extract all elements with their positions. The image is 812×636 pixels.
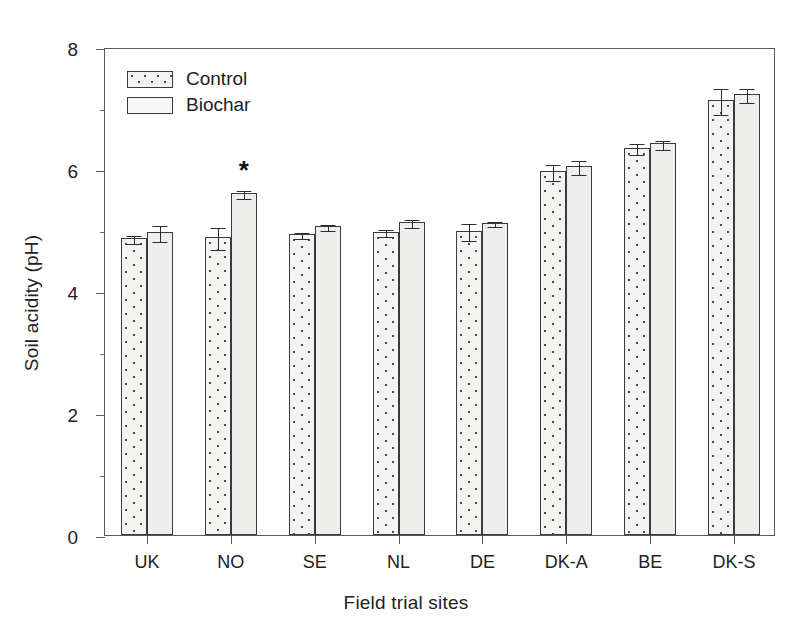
y-tick-6: 6 xyxy=(96,171,105,172)
y-tick-label-4: 4 xyxy=(67,283,78,305)
error-cap-SE-biochar-upper xyxy=(320,225,335,226)
error-cap-UK-biochar-upper xyxy=(152,226,167,227)
error-bar-DK-A-biochar xyxy=(579,161,580,176)
error-bar-UK-biochar xyxy=(160,226,161,242)
error-bar-NL-biochar xyxy=(412,220,413,227)
x-tick-label-DK-A: DK-A xyxy=(545,552,588,573)
x-tick-label-UK: UK xyxy=(134,552,159,573)
x-axis-title: Field trial sites xyxy=(0,592,812,614)
plot-area: Control Biochar 02468 UKNOSENLDEDK-ABEDK… xyxy=(104,48,775,536)
x-tick-NO xyxy=(231,535,232,544)
error-bar-DK-S-biochar xyxy=(747,89,748,104)
x-tick-label-NL: NL xyxy=(387,552,410,573)
legend-label-control: Control xyxy=(186,68,247,90)
error-cap-NO-control-lower xyxy=(210,250,225,251)
x-tick-DK-S xyxy=(734,535,735,544)
y-tick-minor-3 xyxy=(100,354,105,355)
error-cap-DE-biochar-upper xyxy=(488,222,503,223)
y-tick-minor-1 xyxy=(100,476,105,477)
y-tick-label-2: 2 xyxy=(67,405,78,427)
error-cap-BE-biochar-upper xyxy=(656,141,671,142)
bar-BE-control xyxy=(624,148,650,535)
bar-NO-control xyxy=(205,237,231,535)
bar-UK-control xyxy=(121,238,147,535)
bar-SE-control xyxy=(289,234,315,535)
error-cap-DK-S-control-upper xyxy=(714,89,729,90)
x-tick-UK xyxy=(147,535,148,544)
error-cap-DK-A-biochar-lower xyxy=(572,175,587,176)
legend-swatch-biochar-icon xyxy=(127,97,173,114)
y-tick-2: 2 xyxy=(96,415,105,416)
error-cap-NO-biochar-lower xyxy=(236,199,251,200)
y-tick-label-8: 8 xyxy=(67,39,78,61)
error-cap-BE-control-upper xyxy=(630,144,645,145)
error-cap-UK-biochar-lower xyxy=(152,242,167,243)
error-bar-NO-biochar xyxy=(244,191,245,200)
bar-DE-control xyxy=(456,231,482,535)
error-bar-NL-control xyxy=(386,230,387,237)
bar-DK-S-biochar xyxy=(734,94,760,535)
bar-NO-biochar xyxy=(231,193,257,535)
error-cap-UK-control-upper xyxy=(126,236,141,237)
x-tick-label-BE: BE xyxy=(638,552,662,573)
error-cap-DE-biochar-lower xyxy=(488,227,503,228)
bar-DK-A-control xyxy=(540,171,566,535)
error-bar-DK-S-control xyxy=(721,89,722,116)
error-cap-NL-control-lower xyxy=(378,237,393,238)
y-tick-4: 4 xyxy=(96,293,105,294)
error-cap-BE-control-lower xyxy=(630,155,645,156)
legend-label-biochar: Biochar xyxy=(186,94,250,116)
x-tick-label-DK-S: DK-S xyxy=(713,552,756,573)
x-tick-label-DE: DE xyxy=(470,552,495,573)
error-cap-NO-control-upper xyxy=(210,228,225,229)
error-bar-DK-A-control xyxy=(553,165,554,181)
error-bar-DE-control xyxy=(469,224,470,241)
bar-NL-biochar xyxy=(399,222,425,535)
error-cap-DK-S-biochar-upper xyxy=(740,89,755,90)
y-axis-title: Soil acidity (pH) xyxy=(21,153,43,453)
legend-item-control: Control xyxy=(127,67,317,91)
error-cap-SE-control-upper xyxy=(294,233,309,234)
error-cap-NL-biochar-upper xyxy=(404,220,419,221)
error-cap-NL-biochar-lower xyxy=(404,228,419,229)
bar-DK-S-control xyxy=(708,100,734,535)
y-tick-8: 8 xyxy=(96,49,105,50)
error-cap-NO-biochar-upper xyxy=(236,191,251,192)
bar-BE-biochar xyxy=(650,143,676,535)
bar-UK-biochar xyxy=(147,232,173,535)
legend-item-biochar: Biochar xyxy=(127,93,317,117)
x-tick-SE xyxy=(315,535,316,544)
chart-figure: Soil acidity (pH) Field trial sites Cont… xyxy=(0,0,812,636)
y-tick-minor-5 xyxy=(100,232,105,233)
error-bar-NO-control xyxy=(218,228,219,250)
bar-DE-biochar xyxy=(482,223,508,535)
error-cap-DK-A-control-lower xyxy=(546,181,561,182)
error-cap-NL-control-upper xyxy=(378,230,393,231)
y-tick-label-6: 6 xyxy=(67,161,78,183)
error-cap-UK-control-lower xyxy=(126,244,141,245)
error-cap-SE-biochar-lower xyxy=(320,231,335,232)
x-tick-label-NO: NO xyxy=(217,552,244,573)
error-bar-BE-biochar xyxy=(663,141,664,150)
error-cap-DK-A-control-upper xyxy=(546,165,561,166)
x-tick-BE xyxy=(650,535,651,544)
bar-SE-biochar xyxy=(315,226,341,535)
error-cap-DK-A-biochar-upper xyxy=(572,161,587,162)
significance-marker-NO: * xyxy=(239,157,249,183)
error-cap-BE-biochar-lower xyxy=(656,150,671,151)
x-tick-NL xyxy=(399,535,400,544)
error-bar-BE-control xyxy=(637,144,638,155)
error-cap-SE-control-lower xyxy=(294,239,309,240)
x-tick-DE xyxy=(482,535,483,544)
chart-legend: Control Biochar xyxy=(127,67,317,119)
bar-NL-control xyxy=(373,232,399,535)
error-cap-DE-control-lower xyxy=(462,241,477,242)
y-tick-0: 0 xyxy=(96,537,105,538)
x-tick-label-SE: SE xyxy=(303,552,327,573)
legend-swatch-control-icon xyxy=(127,71,173,88)
error-cap-DK-S-biochar-lower xyxy=(740,103,755,104)
error-bar-UK-control xyxy=(134,236,135,243)
error-cap-DE-control-upper xyxy=(462,224,477,225)
bar-DK-A-biochar xyxy=(566,166,592,535)
y-tick-minor-7 xyxy=(100,110,105,111)
